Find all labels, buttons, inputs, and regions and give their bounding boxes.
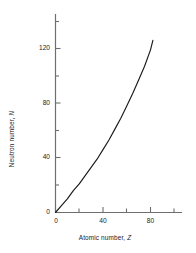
neutron-vs-atomic-number-chart (0, 0, 196, 253)
x-tick-label-0: 0 (45, 217, 67, 224)
plot-background (0, 0, 196, 253)
x-axis-title-symbol: Z (127, 234, 131, 241)
y-tick-label-120: 120 (28, 44, 50, 51)
x-axis-title: Atomic number, Z (0, 234, 196, 241)
y-axis-title-text: Neutron number, (8, 116, 15, 168)
x-tick-label-40: 40 (92, 217, 114, 224)
y-axis-title-symbol: N (8, 111, 15, 116)
y-axis-title: Neutron number, N (4, 41, 20, 237)
x-tick-label-80: 80 (140, 217, 162, 224)
y-tick-label-0: 0 (28, 208, 50, 215)
y-tick-label-40: 40 (28, 153, 50, 160)
y-tick-label-80: 80 (28, 99, 50, 106)
x-axis-title-text: Atomic number, (79, 234, 127, 241)
